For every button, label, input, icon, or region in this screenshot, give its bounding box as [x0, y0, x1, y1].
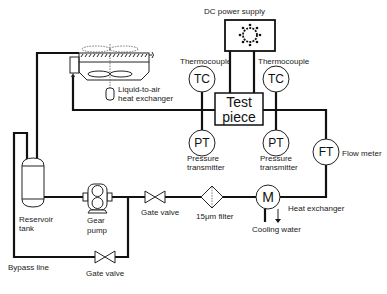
thermocouple-right-symbol: TC [268, 72, 284, 86]
thermocouple-left-label: Thermocouple [180, 57, 232, 66]
flow-loop-diagram: Liquid-to-air heat exchanger DC power su… [0, 0, 387, 294]
test-piece-label-2: piece [222, 109, 256, 125]
thermocouple-left-symbol: TC [194, 72, 210, 86]
flow-meter-label: Flow meter [342, 149, 382, 158]
heat-exchanger-symbol: M [262, 189, 274, 205]
gate-valve-bypass-icon [95, 251, 115, 263]
liquid-air-hx-label-2: heat exchanger [118, 94, 173, 103]
reservoir-tank [22, 158, 44, 207]
cooling-water-arrow-icon [275, 219, 281, 223]
test-piece-label-1: Test [226, 94, 252, 110]
pressure-right-label-2: transmitter [260, 163, 298, 172]
dc-power-supply-label: DC power supply [204, 7, 265, 16]
pressure-left-label-1: Pressure [187, 154, 220, 163]
flow-meter-symbol: FT [319, 145, 334, 159]
pressure-right-label-1: Pressure [260, 154, 293, 163]
gate-valve-main-icon [145, 191, 165, 203]
gate-valve-main-label: Gate valve [141, 208, 180, 217]
reservoir-label-1: Reservoir [19, 215, 54, 224]
gear-pump-label-2: pump [87, 226, 108, 235]
pressure-transmitter-right-symbol: PT [268, 136, 284, 150]
pressure-left-label-2: transmitter [187, 163, 225, 172]
pipe-bypass-branch [115, 197, 128, 257]
bypass-line-label: Bypass line [8, 263, 49, 272]
reservoir-label-2: tank [19, 224, 35, 233]
liquid-air-hx-label-1: Liquid-to-air [118, 85, 161, 94]
pressure-transmitter-left-symbol: PT [194, 136, 210, 150]
heat-exchanger-label: Heat exchanger [288, 204, 345, 213]
gate-valve-bypass-label: Gate valve [86, 269, 125, 278]
gear-pump-label-1: Gear [87, 216, 105, 225]
gear-pump-icon [83, 184, 112, 213]
cooling-water-label: Cooling water [252, 225, 301, 234]
thermocouple-right-label: Thermocouple [258, 57, 310, 66]
filter-label: 15μm filter [196, 212, 234, 221]
